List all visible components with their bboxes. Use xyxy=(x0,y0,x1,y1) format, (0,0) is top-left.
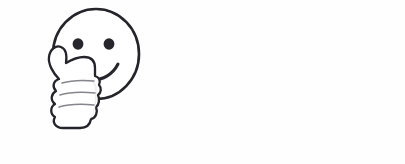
rating-icons-illustration xyxy=(0,0,405,164)
rating-icons-canvas: Feedback rating icons xyxy=(0,0,405,164)
rating-icon-positive[interactable] xyxy=(49,9,139,128)
smiley-right-eye xyxy=(104,38,115,50)
smiley-left-eye xyxy=(73,38,84,50)
